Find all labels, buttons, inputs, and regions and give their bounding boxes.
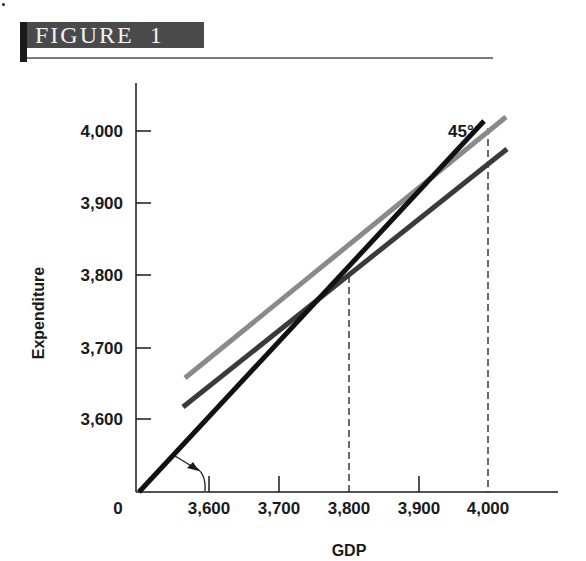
chart: 4,000 3,900 3,800 3,700 3,600 0 3,600 3,… [0, 0, 586, 561]
expenditure-line-low [183, 149, 507, 407]
y-axis-title: Expenditure [30, 267, 47, 360]
y-tick-label: 3,700 [80, 339, 123, 358]
origin-label: 0 [113, 499, 122, 518]
y-tick-labels: 4,000 3,900 3,800 3,700 3,600 [80, 122, 123, 429]
x-tick-label: 3,600 [188, 499, 231, 518]
x-tick-label: 3,700 [258, 499, 301, 518]
y-tick-label: 3,600 [80, 410, 123, 429]
x-tick-labels: 0 3,600 3,700 3,800 3,900 4,000 [113, 499, 509, 518]
y-tick-label: 3,900 [80, 194, 123, 213]
y-tick-label: 3,800 [80, 266, 123, 285]
y-ticks [136, 131, 151, 419]
angle-arrow-icon [175, 456, 205, 491]
x-tick-label: 3,800 [328, 499, 371, 518]
forty-five-degree-line [139, 121, 484, 492]
x-tick-label: 4,000 [467, 499, 510, 518]
x-tick-label: 3,900 [398, 499, 441, 518]
y-tick-label: 4,000 [80, 122, 123, 141]
expenditure-line-high [185, 117, 506, 378]
angle-label: 45° [448, 122, 474, 141]
x-ticks [209, 476, 419, 492]
x-axis-title: GDP [332, 542, 367, 559]
